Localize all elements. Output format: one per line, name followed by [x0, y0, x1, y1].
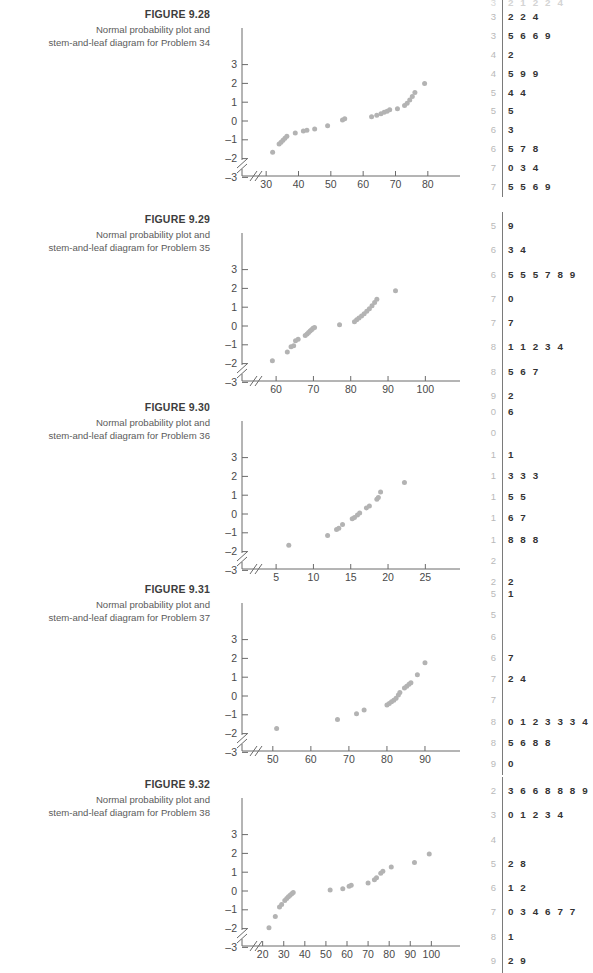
stem-divider [502, 176, 503, 197]
figure-description-line1: Normal probability plot and [96, 794, 210, 805]
stem-value: 5 [482, 88, 496, 98]
stem-divider [502, 138, 503, 159]
figure-caption: FIGURE 9.32Normal probability plot andst… [10, 778, 210, 819]
svg-text:80: 80 [345, 383, 357, 395]
stem-divider [502, 506, 503, 529]
svg-text:10: 10 [308, 571, 320, 583]
leaf-values: 1 [508, 450, 516, 460]
figure-description-line2: stem-and-leaf diagram for Problem 38 [48, 807, 210, 818]
svg-text:90: 90 [404, 948, 416, 960]
leaf-values: 7 [508, 653, 516, 663]
svg-text:50: 50 [267, 753, 279, 765]
stem-value: 7 [482, 907, 496, 917]
stem-value: 8 [482, 367, 496, 377]
svg-text:90: 90 [382, 383, 394, 395]
stem-value: 6 [482, 245, 496, 255]
figure-description-line1: Normal probability plot and [96, 417, 210, 428]
svg-text:20: 20 [257, 948, 269, 960]
figure-description-line1: Normal probability plot and [96, 229, 210, 240]
leaf-values: 1 [508, 932, 516, 942]
svg-text:0: 0 [231, 885, 237, 897]
stem-divider [502, 62, 503, 83]
stem-value: 0 [482, 407, 496, 417]
leaf-values: 2 8 [508, 859, 528, 869]
figure-description-line2: stem-and-leaf diagram for Problem 36 [48, 430, 210, 441]
leaf-values: 5 6 7 [508, 367, 540, 377]
stem-value: 5 [482, 106, 496, 116]
stem-value: 1 [482, 471, 496, 481]
leaf-values: 7 [508, 318, 516, 328]
svg-text:3: 3 [231, 451, 237, 463]
svg-text:80: 80 [381, 753, 393, 765]
svg-text:100: 100 [423, 948, 441, 960]
stem-divider [502, 874, 503, 900]
stem-value: 7 [482, 695, 496, 705]
figure-description: Normal probability plot andstem-and-leaf… [10, 417, 210, 442]
stem-value: 1 [482, 513, 496, 523]
stem-divider [502, 709, 503, 732]
svg-text:–1: –1 [225, 903, 237, 915]
stem-divider [502, 603, 503, 626]
leaf-values: 1 2 [508, 883, 528, 893]
stem-divider [502, 548, 503, 571]
svg-text:40: 40 [293, 178, 305, 190]
svg-text:80: 80 [383, 948, 395, 960]
svg-text:1: 1 [231, 671, 237, 683]
svg-text:60: 60 [270, 383, 282, 395]
stem-value: 8 [482, 342, 496, 352]
stem-value: 8 [482, 738, 496, 748]
svg-text:3: 3 [231, 828, 237, 840]
stem-divider [502, 850, 503, 876]
plot-area: 3210–1–2–32030405060708090100 [222, 778, 472, 963]
svg-text:20: 20 [382, 571, 394, 583]
figure-description: Normal probability plot andstem-and-leaf… [10, 794, 210, 819]
stem-value: 5 [482, 589, 496, 599]
figure-description: Normal probability plot andstem-and-leaf… [10, 24, 210, 49]
svg-text:–2: –2 [225, 357, 237, 369]
stem-divider [502, 236, 503, 262]
stem-divider [502, 751, 503, 774]
stem-value: 5 [482, 221, 496, 231]
svg-text:60: 60 [341, 948, 353, 960]
svg-text:3: 3 [231, 263, 237, 275]
stem-divider [502, 463, 503, 486]
leaf-values: 2 [508, 577, 516, 587]
normal-probability-plot: 3210–1–2–3304050607080 [222, 8, 472, 193]
svg-text:50: 50 [320, 948, 332, 960]
svg-text:40: 40 [299, 948, 311, 960]
leaf-values: 5 5 6 9 [508, 182, 553, 192]
leaf-values: 2 4 [508, 674, 528, 684]
svg-text:15: 15 [345, 571, 357, 583]
svg-text:60: 60 [305, 753, 317, 765]
leaf-values: 8 8 8 [508, 535, 540, 545]
leaf-values: 6 [508, 407, 516, 417]
leaf-values: 0 3 4 6 7 7 [508, 907, 577, 917]
plot-area: 3210–1–2–3304050607080 [222, 8, 472, 193]
svg-text:–3: –3 [225, 941, 237, 953]
leaf-values: 5 9 9 [508, 69, 540, 79]
stem-divider [502, 777, 503, 803]
svg-text:–2: –2 [225, 922, 237, 934]
stem-divider [502, 527, 503, 550]
plot-area: 3210–1–2–360708090100 [222, 213, 472, 398]
normal-probability-plot: 3210–1–2–32030405060708090100 [222, 778, 472, 963]
svg-text:80: 80 [422, 178, 434, 190]
leaf-values: 9 [508, 221, 516, 231]
stem-value: 6 [482, 125, 496, 135]
stem-value: 5 [482, 859, 496, 869]
leaf-values: 0 [508, 759, 516, 769]
stem-divider [502, 119, 503, 140]
leaf-values: 5 5 5 7 8 9 [508, 270, 577, 280]
stem-value: 2 [482, 577, 496, 587]
svg-text:1: 1 [231, 301, 237, 313]
stem-value: 3 [482, 12, 496, 22]
svg-text:–1: –1 [225, 708, 237, 720]
leaf-values: 2 2 4 [508, 12, 540, 22]
stem-divider [502, 484, 503, 507]
svg-text:–1: –1 [225, 133, 237, 145]
stem-divider [502, 399, 503, 422]
stem-divider [502, 358, 503, 384]
svg-text:60: 60 [357, 178, 369, 190]
stem-divider [502, 260, 503, 286]
stem-value: 3 [482, 810, 496, 820]
